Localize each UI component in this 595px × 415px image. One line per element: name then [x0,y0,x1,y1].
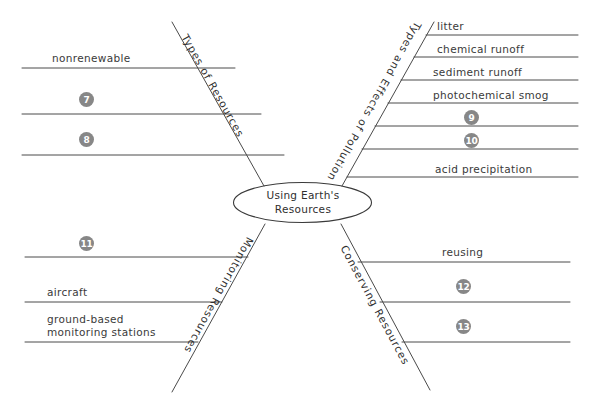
branch-item-badge-8: 8 [79,132,94,147]
branch-item-photochemical-smog: photochemical smog [433,89,549,102]
branch-item-acid-precipitation: acid precipitation [435,163,533,176]
branch-item-reusing: reusing [442,246,483,259]
spine-line-conserving-resources [341,224,430,390]
branch-item-badge-10: 10 [464,133,479,148]
branch-item-badge-11: 11 [79,236,94,251]
branch-item-badge-7: 7 [79,92,94,107]
center-node-label: Using Earth's Resources [238,188,368,216]
branch-item-nonrenewable: nonrenewable [52,52,131,65]
concept-map-diagram: Using Earth's Resources Types of Resourc… [0,0,595,415]
branch-item-ground-based-monitoring-stations: ground-based monitoring stations [47,313,156,338]
branch-item-chemical-runoff: chemical runoff [437,43,524,56]
branch-item-litter: litter [437,20,464,33]
spine-line-types-and-effects-of-pollution [342,22,434,186]
branch-item-badge-13: 13 [456,319,471,334]
branch-item-aircraft: aircraft [47,286,87,299]
branch-item-badge-12: 12 [456,279,471,294]
branch-item-sediment-runoff: sediment runoff [433,66,522,79]
branch-item-badge-9: 9 [464,110,479,125]
